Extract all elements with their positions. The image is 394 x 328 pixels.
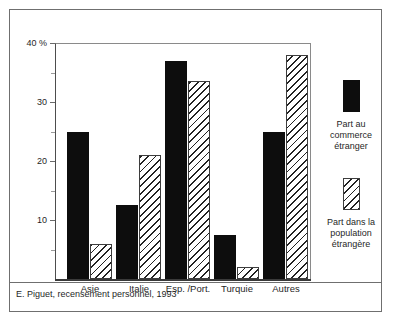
legend-label-commerce-line2: commerce [320,130,382,141]
x-axis-baseline [55,279,311,281]
y-axis-label-20: 20 [37,157,47,166]
bar-italie-commerce[interactable] [116,205,138,279]
source-caption: E. Piguet, recensement personnel, 1993 [16,289,177,300]
clipped-text-strip [0,0,394,7]
y-axis: 40 % 30 20 10 [10,43,55,280]
legend-entry-commerce: Part au commerce étranger [320,80,382,152]
bar-asie-commerce[interactable] [67,132,89,280]
legend-entry-population: Part dans la population étrangère [320,178,382,250]
legend-label-population-line3: étrangère [320,239,382,250]
y-axis-label-30: 30 [37,98,47,107]
caption-divider [10,282,381,283]
legend-swatch-hatch-icon [343,178,360,210]
legend-label-commerce-line3: étranger [320,141,382,152]
legend-label-commerce-line1: Part au [320,119,382,130]
legend-swatch-solid-icon [343,80,360,112]
bar-autres-population[interactable] [286,55,308,279]
legend-label-population: Part dans la population étrangère [320,217,382,250]
bar-autres-commerce[interactable] [263,132,285,280]
y-axis-label-10: 10 [37,216,47,225]
bar-esp-port-commerce[interactable] [165,61,187,279]
figure-frame: 40 % 30 20 10 [9,9,382,312]
bar-turquie-population[interactable] [237,267,259,279]
y-axis-label-40: 40 % [26,39,47,48]
x-axis-label-autres: Autres [272,283,299,294]
bar-asie-population[interactable] [90,244,112,279]
bar-esp-port-population[interactable] [188,81,210,279]
x-axis-label-turquie: Turquie [221,283,253,294]
legend-label-commerce: Part au commerce étranger [320,119,382,152]
bar-italie-population[interactable] [139,155,161,279]
plot-area [55,43,311,280]
bar-turquie-commerce[interactable] [214,235,236,279]
legend-label-population-line2: population [320,228,382,239]
legend-label-population-line1: Part dans la [320,217,382,228]
